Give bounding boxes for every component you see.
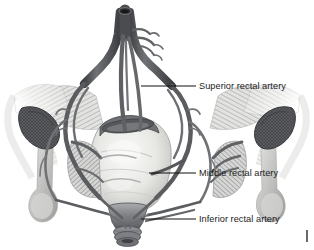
anatomy-illustration: Superior rectal artery Middle rectal art… — [0, 0, 314, 250]
label-superior-rectal-artery: Superior rectal artery — [199, 81, 286, 91]
anatomy-figure: Superior rectal artery Middle rectal art… — [0, 0, 314, 250]
label-middle-rectal-artery: Middle rectal artery — [199, 168, 278, 178]
label-inferior-rectal-artery: Inferior rectal artery — [199, 214, 280, 224]
